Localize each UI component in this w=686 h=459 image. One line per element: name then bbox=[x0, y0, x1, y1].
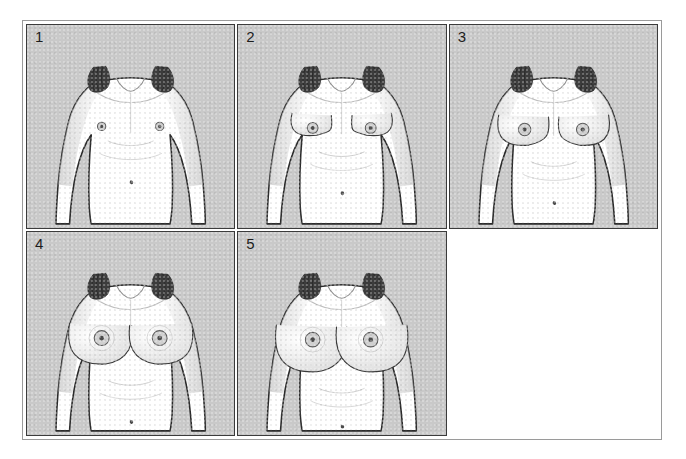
panel-number-label: 5 bbox=[246, 236, 254, 251]
panel-grid: 1 bbox=[26, 24, 658, 436]
panel-number-label: 1 bbox=[35, 29, 43, 44]
torso-illustration-1 bbox=[27, 25, 234, 228]
panel-stage-5: 5 bbox=[237, 231, 446, 436]
panel-number-label: 3 bbox=[458, 29, 466, 44]
panel-stage-2: 2 bbox=[237, 24, 446, 229]
torso-illustration-5 bbox=[238, 232, 445, 435]
panel-stage-4: 4 bbox=[26, 231, 235, 436]
torso-illustration-2 bbox=[238, 25, 445, 228]
panel-stage-3: 3 bbox=[449, 24, 658, 229]
torso-illustration-4 bbox=[27, 232, 234, 435]
torso-illustration-3 bbox=[450, 25, 657, 228]
figure-root: 1 bbox=[0, 0, 686, 459]
illustration-plate-frame: 1 bbox=[22, 20, 662, 440]
panel-number-label: 4 bbox=[35, 236, 43, 251]
panel-number-label: 2 bbox=[246, 29, 254, 44]
panel-empty bbox=[449, 231, 658, 436]
panel-stage-1: 1 bbox=[26, 24, 235, 229]
